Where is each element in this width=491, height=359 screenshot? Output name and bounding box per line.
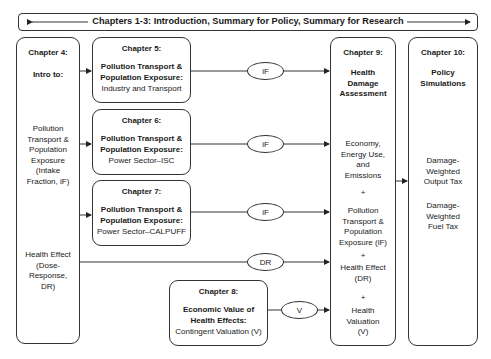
chapter-8-detail: Contingent Valuation (V) — [170, 327, 267, 338]
text-line: Economy, — [331, 139, 395, 150]
chapter-5-title: Chapter 5: — [93, 44, 190, 55]
chapter-9-economy-block: Economy, Energy Use, and Emissions — [331, 139, 395, 181]
if-oval-3: iF — [247, 203, 284, 221]
chapter-8-title: Chapter 8: — [170, 287, 267, 298]
text-line: Weighted — [409, 167, 477, 178]
chapter-8-line2: Health Effects: — [170, 316, 267, 327]
text-line: Fuel Tax — [409, 222, 477, 233]
text-line: Transport & — [331, 217, 395, 228]
chapter-10-title: Chapter 10: — [409, 48, 477, 59]
chapter-5-line1: Pollution Transport & — [93, 62, 190, 73]
plus-sign: + — [331, 251, 395, 262]
chapter-6-line1: Pollution Transport & — [93, 134, 190, 145]
text-line: (DR) — [331, 274, 395, 285]
text-line: DR) — [17, 282, 79, 293]
chapter-6-title: Chapter 6: — [93, 116, 190, 127]
chapter-4-title: Chapter 4: — [17, 48, 79, 59]
text-line: Exposure (iF) — [331, 238, 395, 249]
chapter-10-heading: Policy Simulations — [409, 68, 477, 89]
chapter-5-detail: Industry and Transport — [93, 84, 190, 95]
chapter-7-detail: Power Sector–CALPUFF — [93, 227, 190, 238]
chapter-4-subtitle: Intro to: — [17, 70, 79, 81]
fuel-tax-item: Damage- Weighted Fuel Tax — [409, 201, 477, 233]
text-line: Weighted — [409, 212, 477, 223]
chapters-1-3-banner: Chapters 1-3: Introduction, Summary for … — [18, 13, 478, 31]
text-line: Pollution — [17, 124, 79, 135]
chapter-9-box: Chapter 9: Health Damage Assessment Econ… — [330, 37, 396, 346]
chapter-6-line2: Population Exposure: — [93, 145, 190, 156]
text-line: Energy Use, — [331, 150, 395, 161]
chapter-6-detail: Power Sector–ISC — [93, 156, 190, 167]
plus-sign: + — [331, 293, 395, 304]
text-line: Assessment — [331, 89, 395, 100]
text-line: Emissions — [331, 171, 395, 182]
text-line: Policy — [409, 68, 477, 79]
text-line: Health Effect — [331, 263, 395, 274]
chapter-9-valuation-block: Health Valuation (V) — [331, 306, 395, 338]
chapter-7-line2: Population Exposure: — [93, 216, 190, 227]
text-line: Health Effect — [17, 250, 79, 261]
chapter-7-line1: Pollution Transport & — [93, 205, 190, 216]
text-line: Simulations — [409, 79, 477, 90]
banner-text: Chapters 1-3: Introduction, Summary for … — [89, 16, 406, 26]
text-line: Fraction, iF) — [17, 177, 79, 188]
text-line: (V) — [331, 327, 395, 338]
text-line: Damage — [331, 79, 395, 90]
chapter-7-box: Chapter 7: Pollution Transport & Populat… — [92, 180, 191, 246]
chapter-9-health-effect-block: Health Effect (DR) — [331, 263, 395, 284]
output-tax-item: Damage- Weighted Output Tax — [409, 156, 477, 188]
text-line: (Intake — [17, 166, 79, 177]
text-line: Health — [331, 68, 395, 79]
if-oval-1: iF — [247, 62, 284, 80]
text-line: Response, — [17, 271, 79, 282]
text-line: Health — [331, 306, 395, 317]
text-line: (Dose- — [17, 261, 79, 272]
text-line: Population — [331, 227, 395, 238]
text-line: Output Tax — [409, 177, 477, 188]
chapter-4-box: Chapter 4: Intro to: Pollution Transport… — [16, 37, 80, 344]
chapter-5-line2: Population Exposure: — [93, 73, 190, 84]
text-line: Transport & — [17, 135, 79, 146]
if-oval-2: iF — [247, 135, 284, 153]
text-line: Damage- — [409, 201, 477, 212]
plus-sign: + — [331, 188, 395, 199]
v-oval: V — [281, 301, 318, 319]
chapter-6-box: Chapter 6: Pollution Transport & Populat… — [92, 109, 191, 175]
chapter-10-box: Chapter 10: Policy Simulations Damage- W… — [408, 37, 478, 346]
text-line: Valuation — [331, 317, 395, 328]
text-line: Population — [17, 145, 79, 156]
chapter-9-title: Chapter 9: — [331, 48, 395, 59]
chapter-4-item-health-effect: Health Effect (Dose- Response, DR) — [17, 250, 79, 292]
dr-oval: DR — [247, 253, 284, 271]
chapter-7-title: Chapter 7: — [93, 187, 190, 198]
chapter-9-pollution-block: Pollution Transport & Population Exposur… — [331, 206, 395, 248]
text-line: Damage- — [409, 156, 477, 167]
chapter-8-line1: Economic Value of — [170, 305, 267, 316]
text-line: Pollution — [331, 206, 395, 217]
chapter-4-item-pollution-transport: Pollution Transport & Population Exposur… — [17, 124, 79, 187]
chapter-5-box: Chapter 5: Pollution Transport & Populat… — [92, 37, 191, 103]
text-line: and — [331, 160, 395, 171]
chapter-8-box: Chapter 8: Economic Value of Health Effe… — [169, 280, 268, 346]
chapter-9-heading: Health Damage Assessment — [331, 68, 395, 100]
text-line: Exposure — [17, 156, 79, 167]
